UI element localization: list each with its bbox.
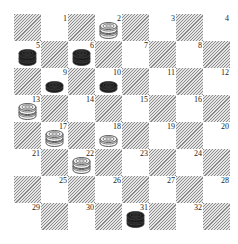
board-square-dark[interactable] xyxy=(68,68,95,95)
white-king-piece-icon[interactable] xyxy=(18,103,37,120)
square-number: 4 xyxy=(225,14,229,23)
black-king-piece-icon[interactable] xyxy=(72,49,91,66)
square-number: 28 xyxy=(221,176,229,185)
board-square-dark[interactable] xyxy=(122,68,149,95)
square-number: 24 xyxy=(194,149,202,158)
board-square-23[interactable]: 23 xyxy=(122,149,149,176)
board-square-dark[interactable] xyxy=(176,68,203,95)
square-number: 29 xyxy=(32,203,40,212)
board-square-19[interactable]: 19 xyxy=(149,122,176,149)
board-square-dark[interactable] xyxy=(149,41,176,68)
board-square-21[interactable]: 21 xyxy=(14,149,41,176)
board-square-dark[interactable] xyxy=(122,122,149,149)
board-square-dark[interactable] xyxy=(149,149,176,176)
black-man-piece-icon[interactable] xyxy=(99,81,118,93)
square-number: 1 xyxy=(63,14,67,23)
black-king-piece-icon[interactable] xyxy=(126,211,145,228)
board-square-6[interactable]: 6 xyxy=(68,41,95,68)
board-square-dark[interactable] xyxy=(122,14,149,41)
board-square-16[interactable]: 16 xyxy=(176,95,203,122)
board-square-17[interactable]: 17 xyxy=(41,122,68,149)
board-square-27[interactable]: 27 xyxy=(149,176,176,203)
board-square-dark[interactable] xyxy=(41,149,68,176)
square-number: 16 xyxy=(194,95,202,104)
board-square-dark[interactable] xyxy=(203,149,230,176)
board-square-dark[interactable] xyxy=(68,122,95,149)
board-square-dark[interactable] xyxy=(41,95,68,122)
board-square-dark[interactable] xyxy=(14,14,41,41)
white-man-piece-icon[interactable] xyxy=(99,135,118,147)
board-square-dark[interactable] xyxy=(41,41,68,68)
board-square-5[interactable]: 5 xyxy=(14,41,41,68)
square-number: 27 xyxy=(167,176,175,185)
board-square-18[interactable]: 18 xyxy=(95,122,122,149)
board-square-2[interactable]: 2 xyxy=(95,14,122,41)
board-square-dark[interactable] xyxy=(176,14,203,41)
square-number: 10 xyxy=(113,68,121,77)
board-square-dark[interactable] xyxy=(176,176,203,203)
board-square-dark[interactable] xyxy=(14,122,41,149)
board-square-4[interactable]: 4 xyxy=(203,14,230,41)
board-square-3[interactable]: 3 xyxy=(149,14,176,41)
board-square-dark[interactable] xyxy=(95,95,122,122)
board-square-dark[interactable] xyxy=(95,41,122,68)
board-square-28[interactable]: 28 xyxy=(203,176,230,203)
board-square-dark[interactable] xyxy=(203,41,230,68)
board-square-dark[interactable] xyxy=(68,14,95,41)
square-number: 8 xyxy=(198,41,202,50)
square-number: 21 xyxy=(32,149,40,158)
board-square-10[interactable]: 10 xyxy=(95,68,122,95)
board-square-dark[interactable] xyxy=(95,149,122,176)
board-square-1[interactable]: 1 xyxy=(41,14,68,41)
board-square-13[interactable]: 13 xyxy=(14,95,41,122)
board-square-31[interactable]: 31 xyxy=(122,203,149,230)
board-square-12[interactable]: 12 xyxy=(203,68,230,95)
square-number: 26 xyxy=(113,176,121,185)
board-square-dark[interactable] xyxy=(14,176,41,203)
board-square-dark[interactable] xyxy=(68,176,95,203)
square-number: 19 xyxy=(167,122,175,131)
square-number: 9 xyxy=(63,68,67,77)
checkers-board: 1234567891011121314151617181920212223242… xyxy=(14,14,230,230)
board-square-dark[interactable] xyxy=(203,95,230,122)
board-square-26[interactable]: 26 xyxy=(95,176,122,203)
board-square-24[interactable]: 24 xyxy=(176,149,203,176)
square-number: 7 xyxy=(144,41,148,50)
board-square-dark[interactable] xyxy=(41,203,68,230)
black-king-piece-icon[interactable] xyxy=(18,49,37,66)
square-number: 18 xyxy=(113,122,121,131)
board-square-11[interactable]: 11 xyxy=(149,68,176,95)
board-square-32[interactable]: 32 xyxy=(176,203,203,230)
board-square-dark[interactable] xyxy=(149,95,176,122)
board-square-20[interactable]: 20 xyxy=(203,122,230,149)
board-square-dark[interactable] xyxy=(122,176,149,203)
square-number: 15 xyxy=(140,95,148,104)
board-square-7[interactable]: 7 xyxy=(122,41,149,68)
board-square-14[interactable]: 14 xyxy=(68,95,95,122)
board-square-29[interactable]: 29 xyxy=(14,203,41,230)
board-square-9[interactable]: 9 xyxy=(41,68,68,95)
board-square-dark[interactable] xyxy=(176,122,203,149)
square-number: 12 xyxy=(221,68,229,77)
black-man-piece-icon[interactable] xyxy=(45,81,64,93)
square-number: 11 xyxy=(167,68,175,77)
square-number: 3 xyxy=(171,14,175,23)
square-number: 30 xyxy=(86,203,94,212)
board-square-dark[interactable] xyxy=(149,203,176,230)
board-square-22[interactable]: 22 xyxy=(68,149,95,176)
board-square-30[interactable]: 30 xyxy=(68,203,95,230)
square-number: 25 xyxy=(59,176,67,185)
board-square-8[interactable]: 8 xyxy=(176,41,203,68)
board-square-25[interactable]: 25 xyxy=(41,176,68,203)
board-square-15[interactable]: 15 xyxy=(122,95,149,122)
board-square-dark[interactable] xyxy=(95,203,122,230)
white-king-piece-icon[interactable] xyxy=(99,22,118,39)
square-number: 23 xyxy=(140,149,148,158)
board-square-dark[interactable] xyxy=(203,203,230,230)
board-square-dark[interactable] xyxy=(14,68,41,95)
square-number: 32 xyxy=(194,203,202,212)
square-number: 14 xyxy=(86,95,94,104)
white-king-piece-icon[interactable] xyxy=(45,130,64,147)
white-king-piece-icon[interactable] xyxy=(72,157,91,174)
square-number: 20 xyxy=(221,122,229,131)
